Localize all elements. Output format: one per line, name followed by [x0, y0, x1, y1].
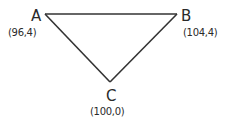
vertex-c-label: C	[106, 89, 116, 104]
edge-b-c	[110, 14, 177, 82]
vertex-a-label: A	[31, 9, 41, 24]
vertex-b-coords: (104,4)	[183, 27, 217, 38]
vertex-b-label: B	[181, 9, 191, 24]
vertex-a-coords: (96,4)	[8, 27, 36, 38]
vertex-c-coords: (100,0)	[90, 106, 124, 117]
triangle-diagram: A (96,4) B (104,4) C (100,0)	[0, 0, 227, 123]
edge-c-a	[45, 14, 110, 82]
